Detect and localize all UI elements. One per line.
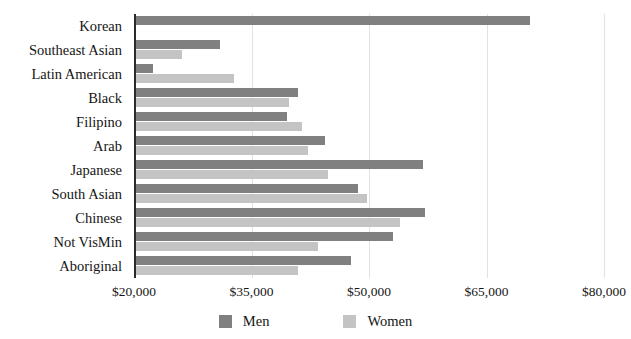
category-label-not-vismin: Not VisMin (53, 235, 122, 250)
category-label-japanese: Japanese (70, 163, 122, 178)
bar-men-black (136, 88, 298, 97)
bar-women-black (136, 98, 290, 107)
x-tick-label: $50,000 (347, 284, 391, 299)
category-label-arab: Arab (93, 139, 122, 154)
category-label-latin-american: Latin American (31, 67, 122, 82)
bar-men-not-vismin (136, 232, 393, 241)
value-axis-labels: $20,000$35,000$50,000$65,000$80,000 (134, 284, 604, 304)
legend-item-women: Women (343, 314, 412, 329)
bar-women-south-asian (136, 194, 367, 203)
category-label-south-asian: South Asian (52, 187, 123, 202)
bar-men-latin-american (136, 64, 153, 73)
category-label-southeast-asian: Southeast Asian (29, 43, 122, 58)
bar-women-chinese (136, 218, 401, 227)
plot-area (134, 14, 604, 278)
bar-men-southeast-asian (136, 40, 221, 49)
legend-item-men: Men (219, 314, 270, 329)
bar-men-korean (136, 16, 531, 25)
gridline (487, 14, 488, 278)
category-axis: KoreanSoutheast AsianLatin AmericanBlack… (0, 14, 128, 278)
bar-men-arab (136, 136, 326, 145)
bar-men-japanese (136, 160, 423, 169)
bar-women-filipino (136, 122, 302, 131)
legend-label: Men (243, 314, 270, 329)
chart-legend: MenWomen (0, 310, 631, 332)
x-tick-label: $65,000 (465, 284, 509, 299)
bar-women-japanese (136, 170, 329, 179)
bar-men-chinese (136, 208, 426, 217)
bar-women-southeast-asian (136, 50, 182, 59)
legend-swatch-icon-women (343, 315, 356, 328)
bar-women-latin-american (136, 74, 235, 83)
x-tick-label: $20,000 (112, 284, 156, 299)
bar-men-south-asian (136, 184, 358, 193)
bar-women-aboriginal (136, 266, 298, 275)
x-tick-label: $35,000 (230, 284, 274, 299)
category-label-chinese: Chinese (75, 211, 122, 226)
bar-men-aboriginal (136, 256, 351, 265)
bar-women-arab (136, 146, 308, 155)
legend-label: Women (367, 314, 412, 329)
gridline (604, 14, 605, 278)
bar-men-filipino (136, 112, 287, 121)
x-tick-label: $80,000 (582, 284, 626, 299)
category-label-aboriginal: Aboriginal (59, 259, 122, 274)
category-label-black: Black (88, 91, 122, 106)
bar-chart: KoreanSoutheast AsianLatin AmericanBlack… (0, 0, 631, 339)
bar-women-not-vismin (136, 242, 319, 251)
category-label-korean: Korean (79, 19, 122, 34)
legend-swatch-icon-men (219, 315, 232, 328)
category-label-filipino: Filipino (76, 115, 122, 130)
